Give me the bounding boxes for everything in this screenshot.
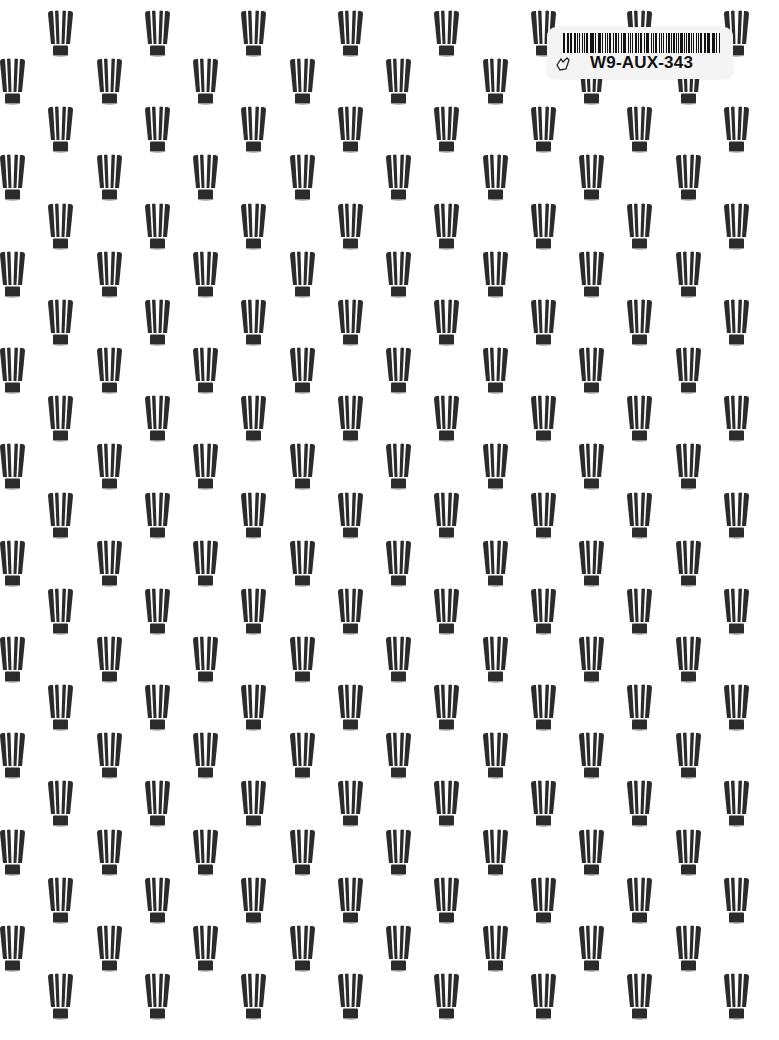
chef-hat-icon [192, 347, 219, 394]
chef-hat-icon [0, 154, 26, 201]
chef-hat-icon [144, 203, 171, 250]
chef-hat-icon [723, 780, 750, 827]
chef-hat-icon [723, 299, 750, 346]
chef-hat-icon [433, 877, 460, 924]
chef-hat-icon [626, 106, 653, 153]
chef-hat-icon [0, 443, 26, 490]
chef-hat-icon [482, 154, 509, 201]
chef-hat-icon [433, 684, 460, 731]
chef-hat-icon [192, 154, 219, 201]
chef-hat-icon [578, 925, 605, 972]
chef-hat-icon [337, 780, 364, 827]
chef-hat-icon [289, 443, 316, 490]
chef-hat-icon [482, 636, 509, 683]
chef-hat-icon [675, 154, 702, 201]
chef-hat-icon [433, 203, 460, 250]
chef-hat-icon [96, 732, 123, 779]
chef-hat-icon [626, 973, 653, 1020]
chef-hat-icon [433, 395, 460, 442]
chef-hat-icon [0, 829, 26, 876]
chef-hat-icon [240, 684, 267, 731]
chef-hat-icon [626, 203, 653, 250]
sticker-code: W9-AUX-343 [590, 53, 693, 73]
chef-hat-icon [47, 299, 74, 346]
chef-hat-icon [626, 780, 653, 827]
chef-hat-icon [144, 684, 171, 731]
chef-hat-icon [433, 492, 460, 539]
chef-hat-icon [385, 251, 412, 298]
chef-hat-icon [47, 10, 74, 57]
chef-hat-icon [530, 780, 557, 827]
chef-hat-icon [96, 540, 123, 587]
chef-hat-icon [482, 925, 509, 972]
chef-hat-icon [723, 492, 750, 539]
chef-hat-icon [482, 58, 509, 105]
chef-hat-icon [0, 347, 26, 394]
chef-hat-icon [47, 106, 74, 153]
chef-hat-icon [626, 684, 653, 731]
chef-hat-icon [385, 636, 412, 683]
chef-hat-icon [385, 58, 412, 105]
chef-hat-icon [482, 251, 509, 298]
chef-hat-icon [530, 973, 557, 1020]
chef-hat-icon [289, 540, 316, 587]
chef-hat-icon [192, 732, 219, 779]
chef-hat-icon [289, 829, 316, 876]
chef-hat-icon [240, 877, 267, 924]
chef-hat-icon [144, 780, 171, 827]
chef-hat-icon [385, 829, 412, 876]
chef-hat-icon [337, 877, 364, 924]
chef-hat-icon [578, 443, 605, 490]
chef-hat-icon [675, 347, 702, 394]
chef-hat-icon [0, 540, 26, 587]
chef-hat-icon [96, 636, 123, 683]
chef-hat-icon [337, 588, 364, 635]
chef-hat-icon [433, 10, 460, 57]
chef-hat-icon [144, 973, 171, 1020]
chef-hat-icon [96, 347, 123, 394]
chef-hat-icon [723, 395, 750, 442]
hand-icon [555, 56, 571, 72]
chef-hat-pattern [0, 0, 779, 1040]
chef-hat-icon [96, 58, 123, 105]
chef-hat-icon [289, 732, 316, 779]
chef-hat-icon [240, 588, 267, 635]
chef-hat-icon [289, 347, 316, 394]
chef-hat-icon [626, 299, 653, 346]
chef-hat-icon [47, 588, 74, 635]
chef-hat-icon [47, 492, 74, 539]
chef-hat-icon [96, 443, 123, 490]
chef-hat-icon [144, 588, 171, 635]
chef-hat-icon [337, 299, 364, 346]
chef-hat-icon [530, 203, 557, 250]
chef-hat-icon [530, 395, 557, 442]
chef-hat-icon [626, 395, 653, 442]
chef-hat-icon [289, 58, 316, 105]
barcode-sticker: W9-AUX-343 [547, 27, 733, 79]
chef-hat-icon [144, 10, 171, 57]
chef-hat-icon [723, 684, 750, 731]
chef-hat-icon [385, 154, 412, 201]
chef-hat-icon [192, 58, 219, 105]
chef-hat-icon [337, 203, 364, 250]
chef-hat-icon [289, 251, 316, 298]
chef-hat-icon [289, 925, 316, 972]
chef-hat-icon [96, 154, 123, 201]
chef-hat-icon [47, 973, 74, 1020]
chef-hat-icon [240, 203, 267, 250]
chef-hat-icon [530, 492, 557, 539]
chef-hat-icon [626, 588, 653, 635]
chef-hat-icon [578, 154, 605, 201]
chef-hat-icon [723, 588, 750, 635]
chef-hat-icon [626, 492, 653, 539]
chef-hat-icon [626, 877, 653, 924]
chef-hat-icon [96, 251, 123, 298]
chef-hat-icon [675, 925, 702, 972]
chef-hat-icon [530, 684, 557, 731]
chef-hat-icon [240, 780, 267, 827]
chef-hat-icon [433, 106, 460, 153]
chef-hat-icon [192, 636, 219, 683]
chef-hat-icon [723, 203, 750, 250]
chef-hat-icon [675, 443, 702, 490]
chef-hat-icon [144, 106, 171, 153]
